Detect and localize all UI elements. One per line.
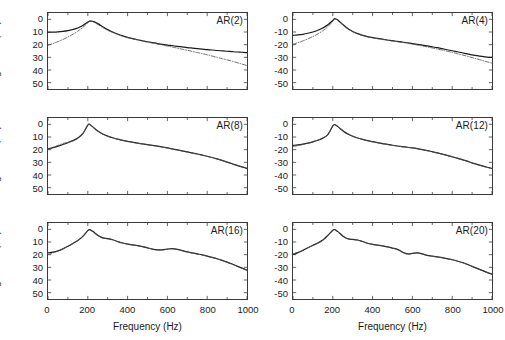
series-estimate (293, 229, 492, 274)
x-axis-label: Frequency (Hz) (358, 321, 427, 332)
y-tick-label: 40 (16, 66, 43, 76)
series-true-spectrum (293, 125, 492, 169)
panel-title: AR(8) (216, 120, 243, 131)
y-tick-label: 10 (16, 237, 43, 247)
y-tick-label: -50 (261, 79, 288, 89)
panel-ar4: AR(4) (292, 12, 493, 90)
x-tick-label: 400 (119, 305, 135, 315)
x-tick-label: 1000 (237, 305, 258, 315)
y-tick-label: 0 (261, 119, 288, 129)
x-tick-label: 200 (79, 305, 95, 315)
y-tick-label: -40 (261, 66, 288, 76)
y-tick-label: 20 (16, 250, 43, 260)
y-tick-label: 20 (16, 145, 43, 155)
panel-ar2: AR(2) (47, 12, 248, 90)
x-tick-label: 1000 (482, 305, 503, 315)
y-tick-label: -50 (261, 289, 288, 299)
y-tick-label: 40 (16, 276, 43, 286)
series-true-spectrum (293, 230, 492, 275)
y-axis-label: Magnitude2 (dB) (0, 231, 1, 300)
y-tick-label: 0 (261, 14, 288, 24)
y-tick-label: -30 (261, 263, 288, 273)
y-tick-label: -10 (261, 27, 288, 37)
y-tick-label: 0 (16, 224, 43, 234)
y-axis-label: Magnitude2 (dB) (0, 126, 1, 195)
y-tick-label: -10 (261, 132, 288, 142)
y-tick-label: 0 (16, 119, 43, 129)
x-tick-label: 800 (445, 305, 461, 315)
y-tick-label: -30 (261, 158, 288, 168)
y-tick-label: -20 (261, 145, 288, 155)
y-tick-label: -30 (261, 53, 288, 63)
panel-title: AR(16) (211, 225, 243, 236)
y-tick-label: 50 (16, 289, 43, 299)
figure-canvas: AR(2)01020304050Magnitude2 (dB)AR(4)0-10… (0, 0, 505, 340)
x-tick-label: 200 (324, 305, 340, 315)
panel-title: AR(2) (216, 15, 243, 26)
x-tick-label: 0 (44, 305, 49, 315)
y-axis-label: Magnitude2 (dB) (0, 21, 1, 90)
y-tick-label: 30 (16, 53, 43, 63)
panel-title: AR(20) (456, 225, 488, 236)
x-tick-label: 400 (364, 305, 380, 315)
panel-ar16: AR(16) (47, 222, 248, 300)
y-tick-label: 0 (16, 14, 43, 24)
y-tick-label: 30 (16, 158, 43, 168)
panel-title: AR(4) (461, 15, 488, 26)
y-tick-label: -40 (261, 276, 288, 286)
y-tick-label: 20 (16, 40, 43, 50)
panel-ar8: AR(8) (47, 117, 248, 195)
y-tick-label: 40 (16, 171, 43, 181)
x-tick-label: 600 (405, 305, 421, 315)
y-tick-label: 10 (16, 132, 43, 142)
y-tick-label: -50 (261, 184, 288, 194)
x-tick-label: 800 (200, 305, 216, 315)
y-tick-label: 50 (16, 79, 43, 89)
panel-ar20: AR(20) (292, 222, 493, 300)
y-tick-label: -40 (261, 171, 288, 181)
x-axis-label: Frequency (Hz) (113, 321, 182, 332)
y-tick-label: -10 (261, 237, 288, 247)
x-tick-label: 600 (160, 305, 176, 315)
y-tick-label: 30 (16, 263, 43, 273)
x-tick-label: 0 (289, 305, 294, 315)
y-tick-label: 50 (16, 184, 43, 194)
y-tick-label: -20 (261, 40, 288, 50)
panel-title: AR(12) (456, 120, 488, 131)
y-tick-label: -20 (261, 250, 288, 260)
y-tick-label: 0 (261, 224, 288, 234)
series-estimate (293, 124, 492, 168)
panel-ar12: AR(12) (292, 117, 493, 195)
y-tick-label: 10 (16, 27, 43, 37)
